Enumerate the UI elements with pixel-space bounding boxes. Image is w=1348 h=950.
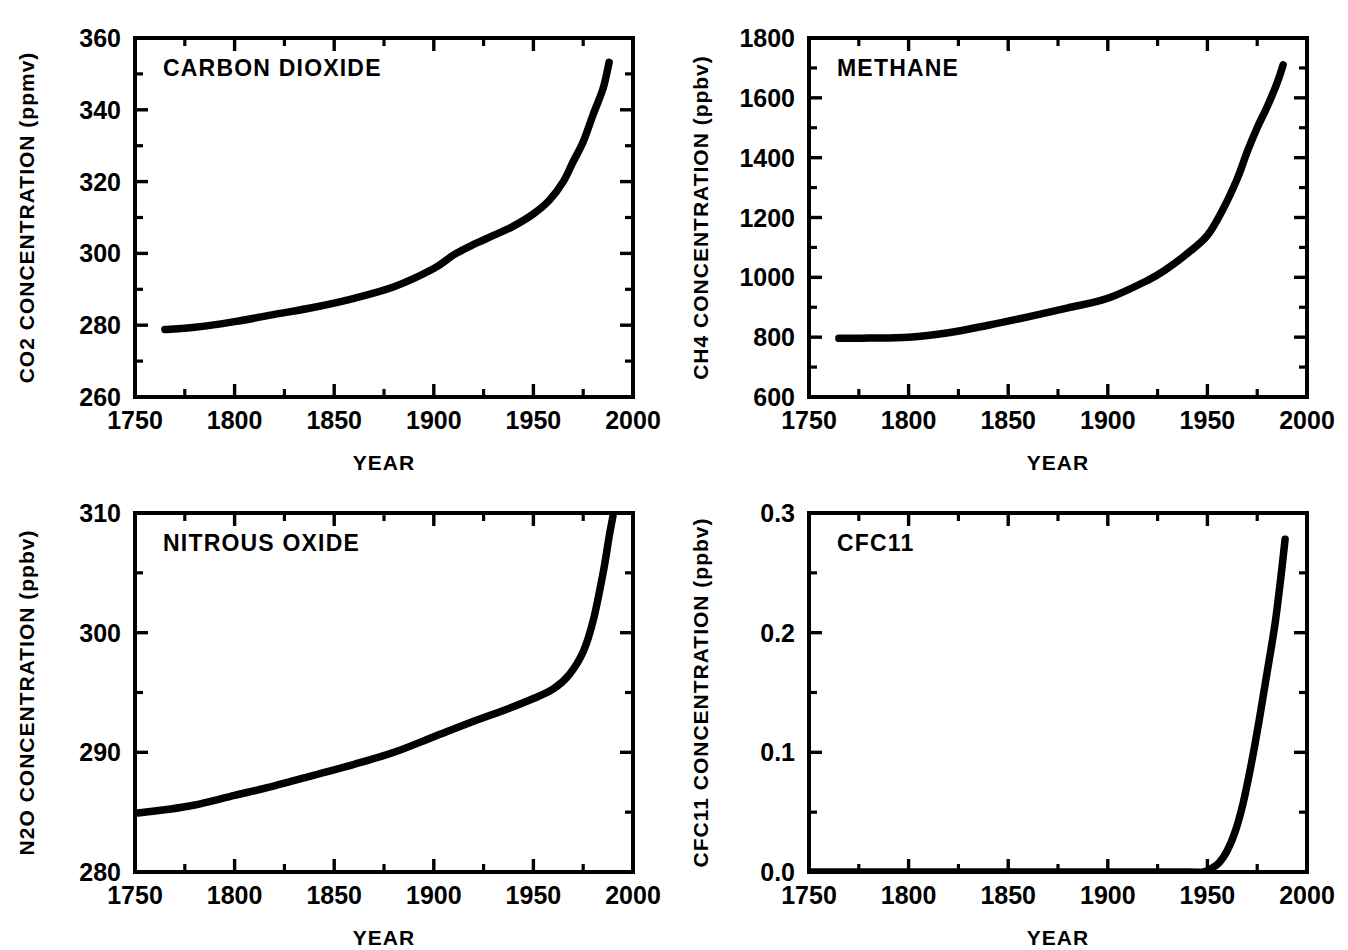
y-tick-label-ch4-10: 1600 <box>739 84 795 112</box>
x-tick-label-co2-1950: 1950 <box>506 406 562 434</box>
plot-frame-ch4 <box>809 38 1307 397</box>
y-tick-label-n2o-2: 290 <box>79 738 121 766</box>
x-tick-label-n2o-1850: 1850 <box>306 881 362 909</box>
data-series-n2o <box>135 515 613 813</box>
y-axis-title-n2o: N2O CONCENTRATION (ppbv) <box>15 530 38 856</box>
plot-frame-co2 <box>135 38 633 397</box>
x-tick-label-ch4-1800: 1800 <box>881 406 937 434</box>
x-tick-label-ch4-1950: 1950 <box>1180 406 1236 434</box>
y-tick-label-n2o-0: 280 <box>79 858 121 886</box>
y-tick-label-co2-2: 280 <box>79 311 121 339</box>
x-axis-title-ch4: YEAR <box>1027 451 1089 474</box>
y-tick-label-ch4-4: 1000 <box>739 263 795 291</box>
x-tick-label-co2-1800: 1800 <box>207 406 263 434</box>
x-tick-label-co2-1900: 1900 <box>406 406 462 434</box>
x-tick-label-cfc11-1900: 1900 <box>1080 881 1136 909</box>
y-tick-label-cfc11-2: 0.1 <box>760 738 795 766</box>
x-tick-label-ch4-2000: 2000 <box>1279 406 1335 434</box>
x-tick-label-n2o-2000: 2000 <box>605 881 661 909</box>
x-tick-label-cfc11-1950: 1950 <box>1180 881 1236 909</box>
x-tick-label-cfc11-1850: 1850 <box>980 881 1036 909</box>
y-axis-title-ch4: CH4 CONCENTRATION (ppbv) <box>689 55 712 380</box>
y-axis-title-cfc11: CFC11 CONCENTRATION (ppbv) <box>689 518 712 868</box>
x-tick-label-n2o-1900: 1900 <box>406 881 462 909</box>
y-tick-label-n2o-4: 300 <box>79 619 121 647</box>
x-tick-label-ch4-1850: 1850 <box>980 406 1036 434</box>
chart-svg-cfc11: 1750180018501900195020000.00.10.20.3CFC1… <box>674 475 1348 950</box>
panel-title-n2o: NITROUS OXIDE <box>163 530 360 556</box>
y-tick-label-co2-8: 340 <box>79 96 121 124</box>
y-tick-label-co2-4: 300 <box>79 239 121 267</box>
y-tick-label-co2-6: 320 <box>79 168 121 196</box>
data-series-cfc11 <box>809 539 1285 872</box>
panel-methane: 1750180018501900195020006008001000120014… <box>674 0 1348 475</box>
panel-title-ch4: METHANE <box>837 55 959 81</box>
y-tick-label-ch4-8: 1400 <box>739 144 795 172</box>
y-tick-label-co2-0: 260 <box>79 383 121 411</box>
y-tick-label-ch4-0: 600 <box>753 383 795 411</box>
x-axis-title-cfc11: YEAR <box>1027 926 1089 949</box>
chart-svg-ch4: 1750180018501900195020006008001000120014… <box>674 0 1348 475</box>
panel-title-cfc11: CFC11 <box>837 530 915 556</box>
x-axis-title-n2o: YEAR <box>353 926 415 949</box>
x-tick-label-cfc11-2000: 2000 <box>1279 881 1335 909</box>
data-series-co2 <box>165 62 609 329</box>
x-tick-label-cfc11-1800: 1800 <box>881 881 937 909</box>
panel-carbon-dioxide: 1750180018501900195020002602803003203403… <box>0 0 674 475</box>
x-tick-label-co2-2000: 2000 <box>605 406 661 434</box>
panel-title-co2: CARBON DIOXIDE <box>163 55 382 81</box>
panel-cfc11: 1750180018501900195020000.00.10.20.3CFC1… <box>674 475 1348 950</box>
x-tick-label-n2o-1800: 1800 <box>207 881 263 909</box>
panel-nitrous-oxide: 175018001850190019502000280290300310NITR… <box>0 475 674 950</box>
x-tick-label-co2-1850: 1850 <box>306 406 362 434</box>
chart-svg-co2: 1750180018501900195020002602803003203403… <box>0 0 674 475</box>
y-tick-label-n2o-6: 310 <box>79 499 121 527</box>
x-axis-title-co2: YEAR <box>353 451 415 474</box>
y-tick-label-cfc11-6: 0.3 <box>760 499 795 527</box>
plot-frame-n2o <box>135 513 633 872</box>
data-series-ch4 <box>839 65 1283 338</box>
greenhouse-gas-figure: 1750180018501900195020002602803003203403… <box>0 0 1348 950</box>
y-axis-title-co2: CO2 CONCENTRATION (ppmv) <box>15 52 38 384</box>
y-tick-label-co2-10: 360 <box>79 24 121 52</box>
chart-svg-n2o: 175018001850190019502000280290300310NITR… <box>0 475 674 950</box>
x-tick-label-n2o-1950: 1950 <box>506 881 562 909</box>
y-tick-label-ch4-6: 1200 <box>739 204 795 232</box>
y-tick-label-ch4-12: 1800 <box>739 24 795 52</box>
y-tick-label-cfc11-4: 0.2 <box>760 619 795 647</box>
plot-frame-cfc11 <box>809 513 1307 872</box>
y-tick-label-cfc11-0: 0.0 <box>760 858 795 886</box>
y-tick-label-ch4-2: 800 <box>753 323 795 351</box>
x-tick-label-ch4-1900: 1900 <box>1080 406 1136 434</box>
